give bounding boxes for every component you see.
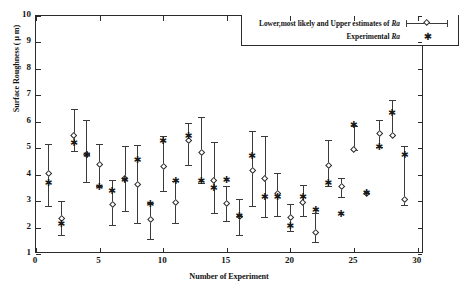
y-tick-label: 2 <box>6 222 31 231</box>
error-bar-cap-upper <box>185 123 192 124</box>
y-tick-mark <box>36 175 41 176</box>
error-bar-cap-upper <box>236 199 243 200</box>
estimate-marker <box>274 190 282 198</box>
error-bar-cap-upper <box>300 185 307 186</box>
error-bar-cap-lower <box>338 197 345 198</box>
error-bar-cap-upper <box>223 186 230 187</box>
x-tick-label: 10 <box>150 256 174 265</box>
y-tick-mark-right <box>418 228 423 229</box>
error-bar-cap-lower <box>249 206 256 207</box>
y-tick-mark-right <box>418 175 423 176</box>
y-tick-mark-right <box>418 42 423 43</box>
data-layer: ✱✱✱✱✱✱✱✱✱✱✱✱✱✱✱✱✱✱✱✱✱✱✱✱✱✱✱✱✱ <box>36 16 422 252</box>
estimate-marker <box>261 175 269 183</box>
error-bar-cap-lower <box>96 186 103 187</box>
estimate-marker <box>223 200 231 208</box>
x-tick-mark-top <box>100 16 101 21</box>
x-tick-mark <box>418 248 419 253</box>
error-bar-cap-lower <box>312 242 319 243</box>
estimate-marker <box>210 176 218 184</box>
plot-area: Lower,most likely and Upper estimates of… <box>35 15 423 253</box>
estimate-marker <box>337 183 345 191</box>
x-tick-mark <box>100 248 101 253</box>
error-bar-cap-lower <box>223 221 230 222</box>
error-bar-cap-upper <box>172 181 179 182</box>
error-bar-cap-upper <box>274 173 281 174</box>
y-tick-mark-right <box>418 69 423 70</box>
error-bar-cap-upper <box>338 178 345 179</box>
error-bar-cap-lower <box>134 223 141 224</box>
error-bar-cap-upper <box>122 146 129 147</box>
x-tick-mark-top <box>163 16 164 21</box>
estimate-marker <box>45 170 53 178</box>
estimate-marker <box>401 196 409 204</box>
error-bar-cap-lower <box>71 151 78 152</box>
y-tick-label: 10 <box>6 10 31 19</box>
y-tick-label: 9 <box>6 36 31 45</box>
y-tick-mark-right <box>418 201 423 202</box>
error-bar-cap-upper <box>376 120 383 121</box>
estimate-marker <box>299 199 307 207</box>
x-tick-mark-top <box>227 16 228 21</box>
error-bar-cap-lower <box>287 231 294 232</box>
error-bar-cap-lower <box>401 205 408 206</box>
x-tick-label: 15 <box>214 256 238 265</box>
x-tick-label: 30 <box>405 256 429 265</box>
error-bar-cap-upper <box>211 142 218 143</box>
estimate-marker <box>376 130 384 138</box>
error-bar-cap-lower <box>261 217 268 218</box>
x-tick-mark <box>290 248 291 253</box>
y-tick-mark <box>36 42 41 43</box>
y-tick-mark-right <box>418 122 423 123</box>
estimate-marker <box>236 213 244 221</box>
estimate-marker <box>58 214 66 222</box>
y-tick-mark <box>36 148 41 149</box>
error-bar-cap-upper <box>71 109 78 110</box>
error-bar-cap-lower <box>147 239 154 240</box>
estimate-marker <box>350 146 358 154</box>
error-bar-cap-lower <box>160 191 167 192</box>
y-tick-label: 8 <box>6 63 31 72</box>
error-bar-cap-lower <box>122 211 129 212</box>
error-bar-cap-upper <box>45 144 52 145</box>
x-tick-label: 20 <box>277 256 301 265</box>
estimate-marker <box>312 229 320 237</box>
error-bar-cap-upper <box>249 131 256 132</box>
x-tick-mark-top <box>290 16 291 21</box>
error-bar-cap-upper <box>134 145 141 146</box>
error-bar-cap-lower <box>198 183 205 184</box>
x-tick-mark-top <box>36 16 37 21</box>
estimate-marker <box>325 162 333 170</box>
error-bar-cap-upper <box>160 136 167 137</box>
x-axis-title: Number of Experiment <box>35 272 423 281</box>
experimental-marker: ✱ <box>223 176 231 184</box>
estimate-marker <box>363 190 371 198</box>
x-tick-label: 5 <box>87 256 111 265</box>
x-tick-mark <box>354 248 355 253</box>
estimate-marker <box>198 149 206 157</box>
estimate-marker <box>185 137 193 145</box>
error-bar-cap-upper <box>83 120 90 121</box>
legend-key-asterisk-icon: ✱ <box>422 30 434 43</box>
experimental-marker: ✱ <box>337 210 345 218</box>
y-tick-label: 7 <box>6 89 31 98</box>
estimate-marker <box>172 199 180 207</box>
y-tick-mark-right <box>418 148 423 149</box>
error-bar-cap-lower <box>58 235 65 236</box>
y-tick-label: 5 <box>6 142 31 151</box>
estimate-marker <box>134 181 142 189</box>
y-tick-label: 3 <box>6 195 31 204</box>
estimate-marker <box>109 201 117 209</box>
error-bar-cap-upper <box>58 201 65 202</box>
error-bar-cap-upper <box>96 144 103 145</box>
error-bar-cap-upper <box>325 140 332 141</box>
estimate-marker <box>96 161 104 169</box>
estimate-marker <box>83 151 91 159</box>
x-tick-label: 0 <box>23 256 47 265</box>
y-tick-mark <box>36 201 41 202</box>
x-tick-mark-top <box>354 16 355 21</box>
error-bar-cap-lower <box>300 216 307 217</box>
estimate-marker <box>121 175 129 183</box>
error-bar-cap-lower <box>325 186 332 187</box>
error-bar-cap-lower <box>45 206 52 207</box>
